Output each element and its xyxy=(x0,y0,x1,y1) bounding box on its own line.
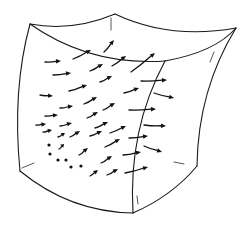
point-dot xyxy=(56,158,59,161)
arrow-icon xyxy=(90,64,103,71)
arrow-icon xyxy=(73,50,91,59)
edge-front-top-to-top-right xyxy=(165,28,236,61)
arrow-icon xyxy=(45,59,61,63)
arrow-icon xyxy=(45,113,58,117)
arrow-icon xyxy=(154,93,174,99)
point-dot xyxy=(47,143,50,146)
arrow-icon xyxy=(90,170,98,176)
arrow-icon xyxy=(90,131,102,136)
edge-top-left-to-front-top xyxy=(30,24,165,62)
edge-top-back-to-top-right xyxy=(115,14,236,32)
arrow-icon xyxy=(43,129,52,133)
arrow-icon xyxy=(53,71,71,75)
cube-hidden-edges xyxy=(22,18,214,204)
point-dot xyxy=(79,164,82,167)
arrow-icon xyxy=(40,93,53,97)
arrow-icon xyxy=(95,122,108,128)
arrow-icon xyxy=(125,166,148,173)
hidden-right-top xyxy=(210,52,214,62)
arrow-icon xyxy=(141,78,167,82)
arrow-icon xyxy=(59,144,64,149)
edge-right-vertical xyxy=(197,28,236,166)
edge-bottom-left-to-bottom-front xyxy=(20,171,133,213)
arrow-icon xyxy=(70,131,80,137)
arrow-icon xyxy=(100,76,112,82)
point-dot xyxy=(64,158,67,161)
arrow-icon xyxy=(101,156,112,163)
arrow-icon xyxy=(104,40,114,52)
vector-field-cube-diagram xyxy=(0,0,249,225)
arrow-icon xyxy=(103,103,115,110)
arrow-icon xyxy=(129,107,156,111)
vector-field-dots xyxy=(47,143,82,168)
arrow-icon xyxy=(124,87,139,93)
point-dot xyxy=(48,152,51,155)
arrow-icon xyxy=(87,112,98,118)
diagram-canvas xyxy=(0,0,249,225)
vector-field-arrows xyxy=(36,40,174,176)
edge-top-left-to-top-back xyxy=(30,14,115,26)
cube-edges xyxy=(18,14,236,213)
arrow-icon xyxy=(58,133,65,137)
arrow-icon xyxy=(105,139,120,147)
arrow-icon xyxy=(107,169,118,175)
arrow-icon xyxy=(123,151,141,155)
arrow-icon xyxy=(60,122,72,126)
arrow-icon xyxy=(112,56,126,66)
edge-bottom-front-to-bottom-right xyxy=(133,166,197,213)
arrow-icon xyxy=(144,146,162,153)
hidden-front-bottom xyxy=(137,196,138,204)
arrow-icon xyxy=(131,53,155,72)
arrow-icon xyxy=(144,124,166,128)
arrow-icon xyxy=(60,105,73,109)
hidden-bottom-right xyxy=(174,162,184,164)
arrow-icon xyxy=(84,97,97,104)
hidden-bottom-left xyxy=(22,163,34,168)
arrow-icon xyxy=(36,122,46,126)
arrow-icon xyxy=(110,126,126,133)
point-dot xyxy=(69,165,72,168)
edge-left-vertical xyxy=(18,24,30,171)
arrow-icon xyxy=(69,84,87,91)
arrow-icon xyxy=(79,148,88,155)
